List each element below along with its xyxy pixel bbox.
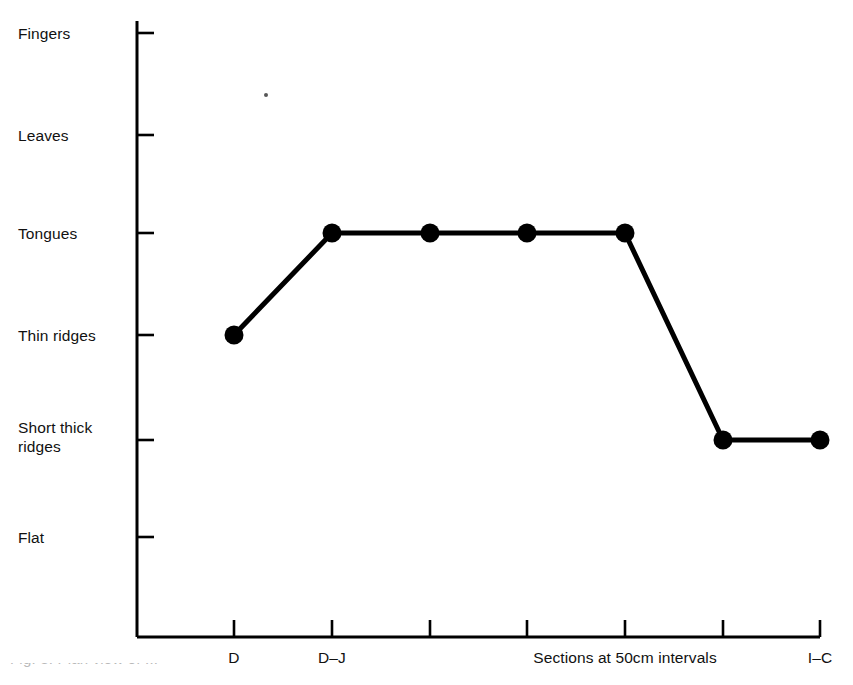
y-axis-label-flat: Flat <box>18 528 133 547</box>
y-axis-ticks <box>137 33 154 537</box>
data-point <box>616 224 635 243</box>
data-point <box>225 326 244 345</box>
y-axis-label-leaves: Leaves <box>18 126 133 145</box>
scan-speck-artifact <box>264 93 268 97</box>
x-axis-ticks <box>234 620 820 637</box>
data-point <box>323 224 342 243</box>
data-point <box>421 224 440 243</box>
y-axis-label-short-thick-ridges: Short thick ridges <box>18 418 133 456</box>
data-series-line <box>234 233 820 440</box>
y-axis-label-thin-ridges: Thin ridges <box>18 326 133 345</box>
data-point <box>518 224 537 243</box>
y-axis-label-fingers: Fingers <box>18 24 133 43</box>
cropped-caption-text: Fig. 3. Plan view of ... <box>10 663 158 667</box>
data-point <box>811 431 830 450</box>
data-point-markers <box>225 224 830 450</box>
data-point <box>714 431 733 450</box>
cropped-caption-fragment: Fig. 3. Plan view of ... <box>0 663 853 685</box>
y-axis-label-tongues: Tongues <box>18 224 133 243</box>
chart-figure: Fingers Leaves Tongues Thin ridges Short… <box>0 0 853 685</box>
